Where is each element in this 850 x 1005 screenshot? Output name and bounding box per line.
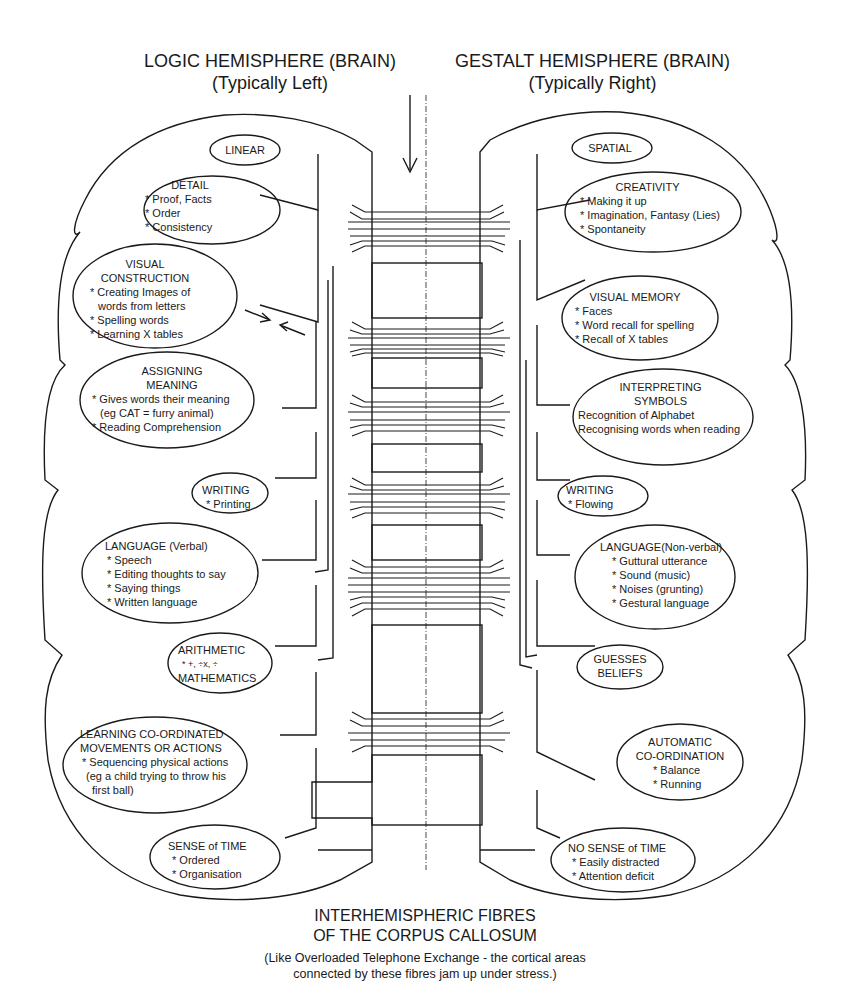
fibre-box — [372, 525, 482, 560]
node-arithmetic: ARITHMETIC * +, ÷x, ÷ MATHEMATICS — [178, 643, 278, 685]
node-automatic-coordination: AUTOMATIC CO-ORDINATION * Balance * Runn… — [625, 735, 735, 791]
caption-note-1: (Like Overloaded Telephone Exchange - th… — [150, 950, 700, 966]
fibre-box — [372, 625, 482, 713]
left-hemisphere-header: LOGIC HEMISPHERE (BRAIN) (Typically Left… — [130, 50, 410, 94]
node-creativity: CREATIVITY * Making it up * Imagination,… — [580, 180, 740, 236]
node-writing-right: WRITING * Flowing — [566, 483, 636, 511]
left-hemisphere-title: LOGIC HEMISPHERE (BRAIN) — [130, 50, 410, 72]
node-assigning-meaning: ASSIGNING MEANING * Gives words their me… — [92, 364, 262, 434]
node-language-verbal: LANGUAGE (Verbal) * Speech * Editing tho… — [105, 539, 255, 609]
caption-line-1: INTERHEMISPHERIC FIBRES — [150, 906, 700, 926]
left-hemisphere-subtitle: (Typically Left) — [130, 72, 410, 94]
node-spatial: SPATIAL — [575, 141, 645, 155]
fibre-box — [372, 358, 482, 388]
right-hemisphere-title: GESTALT HEMISPHERE (BRAIN) — [440, 50, 745, 72]
node-detail: DETAIL * Proof, Facts * Order * Consiste… — [145, 178, 275, 234]
node-language-nonverbal: LANGUAGE(Non-verbal) * Guttural utteranc… — [600, 540, 740, 610]
node-writing-left: WRITING * Printing — [202, 483, 262, 511]
node-guesses-beliefs: GUESSES BELIEFS — [585, 652, 655, 680]
fibre-box — [372, 263, 482, 318]
caption-note-2: connected by these fibres jam up under s… — [150, 966, 700, 982]
right-hemisphere-header: GESTALT HEMISPHERE (BRAIN) (Typically Ri… — [440, 50, 745, 94]
right-hemisphere-subtitle: (Typically Right) — [440, 72, 745, 94]
node-learning-movements: LEARNING CO-ORDINATED MOVEMENTS OR ACTIO… — [80, 727, 250, 797]
fibre-box — [372, 755, 482, 825]
node-visual-construction: VISUAL CONSTRUCTION * Creating Images of… — [90, 257, 230, 341]
node-no-sense-of-time: NO SENSE of TIME * Easily distracted * A… — [568, 841, 688, 883]
node-interpreting-symbols: INTERPRETING SYMBOLS Recognition of Alph… — [578, 380, 748, 436]
brain-diagram — [0, 0, 850, 1005]
node-linear: LINEAR — [213, 143, 277, 157]
node-sense-of-time: SENSE of TIME * Ordered * Organisation — [168, 839, 268, 881]
caption-line-2: OF THE CORPUS CALLOSUM — [150, 926, 700, 946]
corpus-callosum-caption: INTERHEMISPHERIC FIBRES OF THE CORPUS CA… — [150, 906, 700, 982]
fibre-box — [372, 444, 482, 472]
node-visual-memory: VISUAL MEMORY * Faces * Word recall for … — [575, 290, 715, 346]
